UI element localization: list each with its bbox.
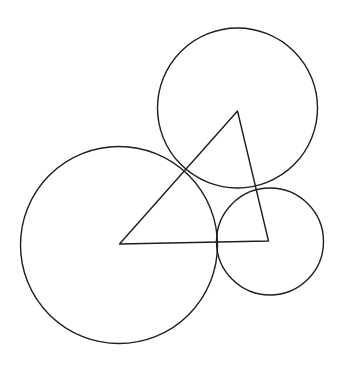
diagram-canvas: [0, 0, 342, 381]
center-triangle: [120, 111, 269, 244]
large-circle: [21, 147, 218, 344]
top-circle: [158, 28, 318, 188]
